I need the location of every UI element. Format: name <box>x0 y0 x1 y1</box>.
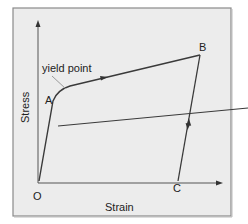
point-c-label: C <box>173 182 181 194</box>
yield-point-label: yield point <box>42 62 92 74</box>
stress-strain-diagram: yield point A B O C Strain Stress <box>0 0 248 224</box>
y-axis-label: Stress <box>19 91 31 123</box>
point-o-label: O <box>33 190 42 202</box>
point-a-label: A <box>45 94 53 106</box>
point-b-label: B <box>199 41 206 53</box>
x-axis-label: Strain <box>105 201 134 213</box>
diagram-frame <box>13 8 231 216</box>
